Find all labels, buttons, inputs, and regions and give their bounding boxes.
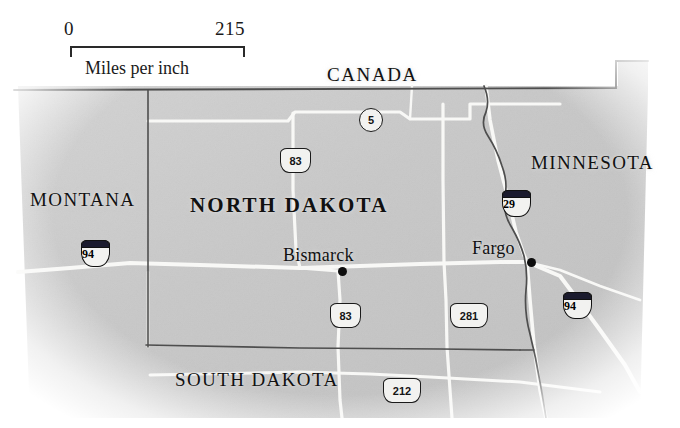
label-fargo: Fargo [472,238,515,259]
route-shield-i94-east: 94 [563,292,592,319]
route-shield-5: 5 [359,108,383,132]
north-dakota-map-figure: 0 215 Miles per inch CANADA MINNESOTA MO… [0,0,680,428]
scale-bracket [70,46,245,57]
scale-bar: 0 215 Miles per inch [0,0,300,80]
city-dot-bismarck [338,267,347,276]
label-montana: MONTANA [30,189,135,211]
route-shield-i29-number: 29 [503,197,515,211]
city-dot-fargo [527,258,536,267]
label-south-dakota: SOUTH DAKOTA [175,369,339,391]
route-shield-212: 212 [383,378,421,403]
label-minnesota: MINNESOTA [531,152,654,174]
scale-max-label: 215 [215,18,245,40]
route-shield-83-north: 83 [280,148,311,173]
route-shield-i94-east-number: 94 [564,299,576,313]
route-shield-i94-west: 94 [81,240,110,267]
route-shield-83-south: 83 [330,303,361,328]
label-north-dakota: NORTH DAKOTA [190,193,389,218]
label-bismarck: Bismarck [283,245,354,266]
label-canada: CANADA [327,64,418,86]
route-shield-i94-west-number: 94 [82,247,94,261]
route-shield-281: 281 [450,303,488,328]
scale-caption: Miles per inch [85,58,189,79]
scale-min-label: 0 [64,18,74,40]
bottom-paper-mask [0,418,680,428]
route-shield-i29: 29 [502,190,531,217]
